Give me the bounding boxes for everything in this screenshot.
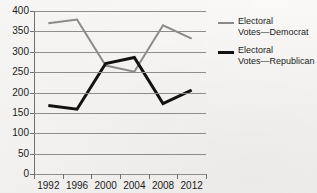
chart-page: 050100150200250300350400 199219962000200…: [0, 0, 317, 193]
y-axis-tick-label: 250: [12, 67, 29, 77]
y-axis-tick: [30, 113, 34, 114]
series-line-democrat: [48, 20, 191, 72]
x-axis-tick: [206, 174, 207, 179]
black-line-swatch-icon: [218, 51, 234, 54]
y-axis-tick-labels: 050100150200250300350400: [0, 11, 29, 174]
gridline: [34, 11, 206, 12]
y-axis-tick-label: 100: [12, 128, 29, 138]
gridline: [34, 133, 206, 134]
y-axis-tick: [30, 31, 34, 32]
y-axis-tick-label: 0: [23, 169, 29, 179]
x-axis-tick: [91, 174, 92, 179]
gray-line-swatch-icon: [218, 22, 234, 24]
y-axis-tick-label: 400: [12, 6, 29, 16]
gridline: [34, 31, 206, 32]
gridline: [34, 72, 206, 73]
x-axis-tick: [120, 174, 121, 179]
x-axis-tick-label: 2000: [95, 180, 117, 191]
y-axis-tick-label: 350: [12, 26, 29, 36]
x-axis-tick-label: 2012: [181, 180, 203, 191]
cropped-title-remnant: [104, 0, 142, 4]
gridline: [34, 52, 206, 53]
series-line-republican: [48, 57, 191, 109]
chart-legend: Electoral Votes—Democrat Electoral Votes…: [218, 16, 317, 74]
legend-label-republican: Electoral Votes—Republican: [238, 45, 315, 67]
x-axis-tick: [34, 174, 35, 179]
x-axis-tick-labels: 199219962000200420082012: [34, 180, 206, 192]
y-axis-tick: [30, 133, 34, 134]
legend-label-democrat: Electoral Votes—Democrat: [238, 16, 309, 38]
y-axis-tick-label: 50: [18, 149, 29, 159]
x-axis-tick: [149, 174, 150, 179]
y-axis-tick-label: 200: [12, 88, 29, 98]
y-axis-tick: [30, 72, 34, 73]
x-axis-tick-label: 2008: [152, 180, 174, 191]
y-axis-tick: [30, 11, 34, 12]
gridline: [34, 113, 206, 114]
gridline: [34, 93, 206, 94]
x-axis-tick-label: 1996: [66, 180, 88, 191]
x-axis-tick-label: 1992: [37, 180, 59, 191]
y-axis-tick: [30, 154, 34, 155]
y-axis-tick: [30, 52, 34, 53]
gridline: [34, 154, 206, 155]
x-axis-tick: [177, 174, 178, 179]
legend-item-democrat: Electoral Votes—Democrat: [218, 16, 317, 38]
x-axis-tick-label: 2004: [123, 180, 145, 191]
y-axis-tick-label: 300: [12, 47, 29, 57]
y-axis-tick: [30, 93, 34, 94]
y-axis-tick-label: 150: [12, 108, 29, 118]
legend-item-republican: Electoral Votes—Republican: [218, 45, 317, 67]
x-axis-tick: [63, 174, 64, 179]
plot-area: [34, 11, 206, 174]
